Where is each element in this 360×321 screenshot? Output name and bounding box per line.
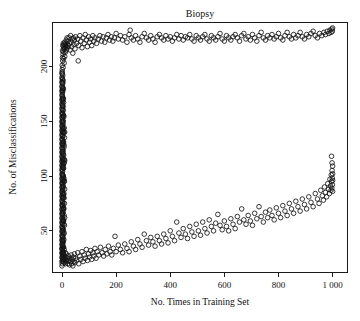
y-axis-title: No. of Misclassifications bbox=[8, 99, 18, 195]
x-tick-label: 0 bbox=[60, 280, 65, 290]
x-tick-label: 800 bbox=[272, 280, 286, 290]
scatter-plot: Biopsy 02004006008001 000 50100150200 No… bbox=[0, 0, 360, 321]
chart-figure: Biopsy 02004006008001 000 50100150200 No… bbox=[0, 0, 360, 321]
x-tick-label: 200 bbox=[109, 280, 123, 290]
y-tick-label: 50 bbox=[39, 226, 49, 236]
x-axis-title: No. Times in Training Set bbox=[151, 297, 250, 307]
y-tick-label: 100 bbox=[39, 169, 49, 183]
x-tick-label: 600 bbox=[218, 280, 232, 290]
y-tick-label: 150 bbox=[39, 114, 49, 128]
x-tick-label: 1 000 bbox=[322, 280, 343, 290]
x-tick-label: 400 bbox=[163, 280, 177, 290]
y-tick-label: 200 bbox=[39, 59, 49, 73]
chart-title: Biopsy bbox=[186, 8, 214, 19]
